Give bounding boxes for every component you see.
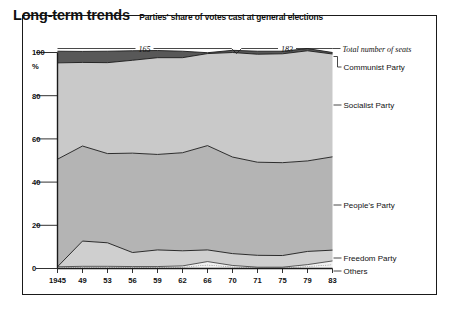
others-texture-dot <box>96 267 97 268</box>
others-texture-dot <box>193 266 194 267</box>
others-texture-dot <box>243 267 244 268</box>
others-texture-dot <box>237 267 238 268</box>
others-texture-dot <box>220 266 221 267</box>
x-tick-label: 83 <box>328 276 336 285</box>
others-texture-dot <box>305 266 306 267</box>
others-texture-dot <box>225 266 226 267</box>
stacked-area-plot <box>57 49 332 269</box>
others-texture-dot <box>234 267 235 268</box>
seats-165-label: 165 <box>139 45 151 54</box>
others-texture-dot <box>187 266 188 267</box>
others-texture-dot <box>87 267 88 268</box>
x-tick-label: 53 <box>103 276 111 285</box>
others-texture-dot <box>321 265 322 266</box>
others-texture-dot <box>218 265 219 266</box>
others-texture-dot <box>212 265 213 266</box>
others-texture-dot <box>325 265 326 266</box>
others-texture-dot <box>107 267 108 268</box>
others-texture-dot <box>105 267 106 268</box>
legend-label-socialist: Socialist Party <box>344 101 395 110</box>
total-seats-caption: Total number of seats <box>343 45 412 54</box>
chart-canvas: 020406080100%19454953565962667071757983 … <box>0 0 461 313</box>
x-tick-label: 79 <box>303 276 311 285</box>
others-texture-dot <box>175 267 176 268</box>
others-texture-dot <box>223 266 224 267</box>
others-texture-dot <box>211 265 212 266</box>
others-texture-dot <box>86 267 87 268</box>
others-texture-dot <box>289 267 290 268</box>
others-texture-dot <box>236 267 237 268</box>
others-texture-dot <box>162 267 163 268</box>
others-texture-dot <box>168 267 169 268</box>
others-texture-dot <box>311 266 312 267</box>
others-texture-dot <box>186 266 187 267</box>
others-texture-dot <box>320 265 321 266</box>
others-texture-dot <box>95 267 96 268</box>
others-texture-dot <box>178 267 179 268</box>
others-texture-dot <box>111 267 112 268</box>
legend-leader-communist <box>334 57 342 68</box>
others-texture-dot <box>245 267 246 268</box>
others-texture-dot <box>102 267 103 268</box>
others-texture-dot <box>166 267 167 268</box>
others-texture-dot <box>77 267 78 268</box>
others-texture-dot <box>180 267 181 268</box>
x-tick-label: 75 <box>278 276 287 285</box>
others-texture-dot <box>203 265 204 266</box>
others-texture-dot <box>296 267 297 268</box>
others-texture-dot <box>84 267 85 268</box>
others-texture-dot <box>177 267 178 268</box>
others-texture-dot <box>209 265 210 266</box>
legend-label-peoples: People's Party <box>344 201 395 210</box>
others-texture-dot <box>293 267 294 268</box>
others-texture-dot <box>164 267 165 268</box>
others-texture-dot <box>80 267 81 268</box>
others-texture-dot <box>200 265 201 266</box>
others-texture-dot <box>318 265 319 266</box>
others-texture-dot <box>214 265 215 266</box>
others-texture-dot <box>121 267 122 268</box>
legend-label-freedom: Freedom Party <box>344 254 397 263</box>
others-texture-dot <box>202 265 203 266</box>
x-tick-label: 1945 <box>49 276 67 285</box>
others-texture-dot <box>221 266 222 267</box>
x-tick-label: 70 <box>228 276 236 285</box>
others-texture-dot <box>93 267 94 268</box>
others-texture-dot <box>191 266 192 267</box>
others-texture-dot <box>216 265 217 266</box>
y-axis-unit-label: % <box>32 62 39 71</box>
others-texture-dot <box>323 265 324 266</box>
y-tick-label: 100 <box>32 48 45 57</box>
seats-183-label: 183 <box>281 45 293 54</box>
others-texture-dot <box>241 267 242 268</box>
others-texture-dot <box>82 267 83 268</box>
x-tick-label: 59 <box>153 276 161 285</box>
others-texture-dot <box>173 267 174 268</box>
others-texture-dot <box>314 266 315 267</box>
others-texture-dot <box>303 266 304 267</box>
others-texture-dot <box>207 265 208 266</box>
others-texture-dot <box>103 267 104 268</box>
others-texture-dot <box>171 267 172 268</box>
others-texture-dot <box>312 266 313 267</box>
others-texture-dot <box>189 266 190 267</box>
x-tick-label: 62 <box>178 276 186 285</box>
others-texture-dot <box>184 267 185 268</box>
others-texture-dot <box>291 267 292 268</box>
y-tick-label: 80 <box>32 92 40 101</box>
others-texture-dot <box>112 267 113 268</box>
others-texture-dot <box>109 267 110 268</box>
y-tick-label: 60 <box>32 135 40 144</box>
others-texture-dot <box>91 267 92 268</box>
others-texture-dot <box>100 267 101 268</box>
band-socialist-party <box>58 51 333 163</box>
legend-label-others: Others <box>344 267 368 276</box>
x-tick-label: 66 <box>203 276 211 285</box>
others-texture-dot <box>232 267 233 268</box>
others-texture-dot <box>114 267 115 268</box>
others-texture-dot <box>170 267 171 268</box>
others-texture-dot <box>307 266 308 267</box>
y-tick-label: 40 <box>32 178 40 187</box>
others-texture-dot <box>182 267 183 268</box>
others-texture-dot <box>198 265 199 266</box>
